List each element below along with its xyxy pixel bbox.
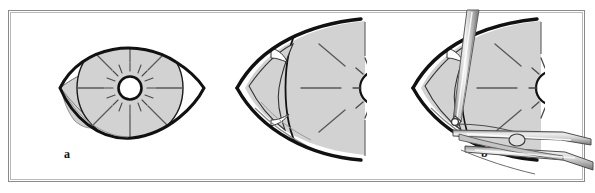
panel-b-illustration — [215, 0, 395, 193]
figure-root: a — [0, 0, 595, 193]
half-pupil — [536, 71, 570, 105]
panel-a: a — [0, 0, 215, 193]
panel-a-illustration — [0, 0, 215, 193]
panel-b: b — [215, 0, 395, 193]
panel-c-illustration — [395, 0, 595, 193]
panel-c: c — [395, 0, 595, 193]
forceps-hinge-ring — [509, 134, 525, 146]
half-pupil — [360, 71, 394, 105]
globe-shading-group — [395, 0, 595, 193]
panel-a-label: a — [64, 148, 70, 160]
pupil — [119, 77, 142, 100]
forceps-instrument — [453, 130, 593, 174]
